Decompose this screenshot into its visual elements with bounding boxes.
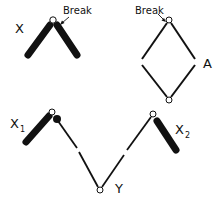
left-thin-segment-lower (79, 152, 98, 187)
x1-knob (53, 115, 61, 123)
panel-x: X Break (15, 5, 92, 55)
x-break-node (50, 17, 56, 23)
a-lower-left-edge (142, 65, 167, 97)
x-label: X (15, 21, 24, 36)
left-thin-segment-upper (58, 121, 77, 148)
a-upper-right-edge (171, 23, 195, 59)
x2-thick-arm (157, 121, 176, 150)
x2-label-sub: 2 (185, 131, 190, 140)
right-thin-segment-upper (127, 117, 151, 150)
x1-label-sub: 1 (20, 125, 25, 134)
x2-label-main: X (175, 122, 184, 137)
a-label: A (203, 56, 212, 71)
a-lower-right-edge (171, 65, 195, 97)
panel-a: Break A (135, 5, 212, 103)
y-node (97, 187, 103, 193)
x1-apex-node (49, 109, 55, 115)
a-break-label: Break (135, 5, 164, 16)
a-bottom-node (166, 97, 172, 103)
a-upper-left-edge (142, 23, 167, 59)
a-top-break-node (166, 17, 172, 23)
break-diagram: X Break Break A (0, 0, 222, 202)
x-break-label: Break (63, 5, 92, 16)
x-left-thick-arm (28, 25, 50, 55)
panel-bottom: X 1 Y X 2 (10, 109, 190, 196)
x1-label-main: X (10, 116, 19, 131)
x2-apex-node (150, 111, 156, 117)
y-label: Y (114, 181, 123, 196)
x1-thick-arm (26, 116, 49, 142)
x-right-thick-arm (57, 25, 77, 55)
